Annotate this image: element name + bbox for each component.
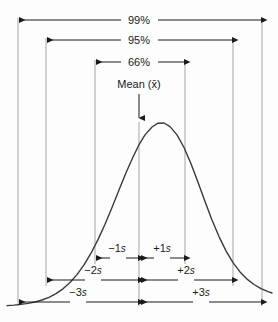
deviation-plus-3s-label: +3s <box>192 286 210 298</box>
interval-99-percent: 99% <box>19 13 261 27</box>
mean-annotation: Mean (x̄) <box>117 78 160 118</box>
deviation-minus-2s: −2s <box>47 264 138 280</box>
interval-66-label: 66% <box>128 56 150 68</box>
deviation-minus-1s-label: −1s <box>108 242 126 254</box>
deviation-minus-2s-label: −2s <box>84 264 102 276</box>
deviation-plus-3s: +3s <box>141 286 261 302</box>
deviation-plus-1s: +1s <box>141 242 184 258</box>
mean-label: Mean (x̄) <box>117 78 160 90</box>
deviation-plus-1s-label: +1s <box>153 242 171 254</box>
deviation-minus-1s: −1s <box>96 242 138 258</box>
deviation-minus-3s: −3s <box>19 286 138 302</box>
deviation-plus-2s-label: +2s <box>177 264 195 276</box>
deviation-plus-2s: +2s <box>141 264 232 280</box>
interval-95-label: 95% <box>128 34 150 46</box>
interval-66-percent: 66% <box>96 55 184 69</box>
deviation-minus-3s-label: −3s <box>69 286 87 298</box>
interval-95-percent: 95% <box>47 33 232 47</box>
interval-99-label: 99% <box>128 14 150 26</box>
normal-distribution-figure: 99% 95% 66% Mean (x̄) <box>0 0 278 322</box>
